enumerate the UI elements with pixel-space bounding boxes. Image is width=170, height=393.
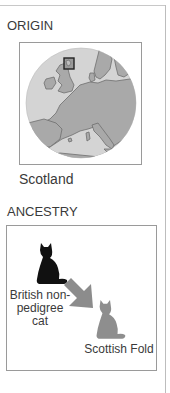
panel-top-border	[0, 5, 166, 6]
origin-caption: Scotland	[19, 171, 73, 187]
child-cat-icon	[93, 298, 127, 339]
origin-heading: ORIGIN	[7, 18, 53, 33]
ancestry-diagram: British non-pedigree cat Scottish Fold	[6, 225, 157, 371]
parent-cat-label: British non-pedigree cat	[9, 289, 71, 328]
ancestry-heading: ANCESTRY	[7, 204, 78, 219]
panel-right-border	[165, 5, 166, 393]
child-cat-label: Scottish Fold	[81, 343, 157, 356]
origin-map	[19, 42, 142, 165]
europe-map-icon	[20, 43, 141, 164]
